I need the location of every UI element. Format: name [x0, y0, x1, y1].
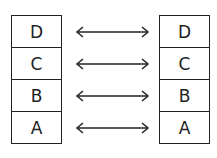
double-arrow-icon-c [75, 58, 150, 70]
left-cell-a: A [12, 112, 61, 143]
left-cell-d: D [12, 16, 61, 48]
left-cell-b: B [12, 80, 61, 112]
double-arrow-icon-a [75, 122, 150, 134]
left-cell-c: C [12, 48, 61, 80]
right-stack: D C B A [159, 15, 210, 144]
double-arrow-icon-d [75, 26, 150, 38]
left-stack: D C B A [11, 15, 62, 144]
right-cell-a: A [160, 112, 209, 143]
right-cell-d: D [160, 16, 209, 48]
double-arrow-icon-b [75, 90, 150, 102]
right-cell-c: C [160, 48, 209, 80]
right-cell-b: B [160, 80, 209, 112]
